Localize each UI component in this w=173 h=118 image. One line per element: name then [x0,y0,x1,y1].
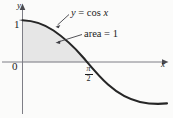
shaded-area-region [23,20,89,62]
x-tick-label-pi-over-two: π 2 [82,65,95,84]
curve-equation-variable: x [103,7,108,18]
x-axis-label: x [161,60,165,69]
area-value-label: area = 1 [84,29,118,40]
curve-label-leader-arrowhead [56,25,61,28]
cosine-area-figure: y x 1 0 π 2 y = cos x area = 1 [0,0,173,118]
pi-denominator: 2 [82,75,95,83]
curve-equation-operator: = cos [76,7,104,18]
curve-equation-label: y = cos x [71,8,108,19]
origin-label-zero: 0 [12,61,18,72]
y-tick-label-one: 1 [14,19,20,30]
pi-numerator: π [82,65,95,73]
y-axis-label: y [17,1,21,10]
curve-label-leader-line [58,15,70,26]
